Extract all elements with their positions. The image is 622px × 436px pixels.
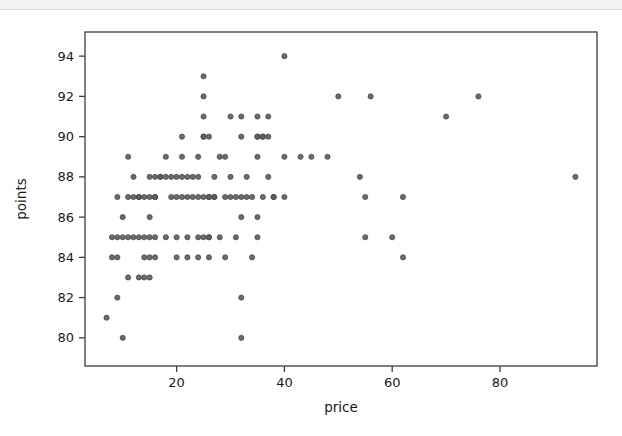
data-point [179, 194, 184, 199]
data-point [239, 215, 244, 220]
y-tick-label: 86 [57, 210, 74, 225]
data-point [228, 194, 233, 199]
data-point [201, 235, 206, 240]
data-point [174, 194, 179, 199]
data-point [239, 134, 244, 139]
data-point [115, 235, 120, 240]
data-point [223, 194, 228, 199]
data-point [357, 174, 362, 179]
data-point [147, 174, 152, 179]
y-tick-label: 90 [57, 129, 74, 144]
data-point [179, 134, 184, 139]
data-point [223, 154, 228, 159]
data-point [163, 174, 168, 179]
data-point [206, 194, 211, 199]
data-point [147, 235, 152, 240]
x-tick-label: 60 [384, 375, 401, 390]
data-point [206, 255, 211, 260]
data-point [126, 275, 131, 280]
data-point [120, 335, 125, 340]
data-point [244, 174, 249, 179]
data-point [255, 215, 260, 220]
data-point [196, 174, 201, 179]
data-point [126, 154, 131, 159]
data-point [336, 94, 341, 99]
data-point [196, 235, 201, 240]
y-tick-label: 80 [57, 330, 74, 345]
y-tick-label: 82 [57, 290, 74, 305]
data-point [201, 134, 206, 139]
data-point [206, 134, 211, 139]
data-point [325, 154, 330, 159]
data-point [163, 154, 168, 159]
data-point [223, 255, 228, 260]
data-point [120, 215, 125, 220]
data-point [185, 255, 190, 260]
data-point [266, 114, 271, 119]
data-points-group [104, 54, 578, 341]
data-point [120, 235, 125, 240]
x-tick-label: 20 [168, 375, 185, 390]
data-point [201, 194, 206, 199]
data-point [206, 235, 211, 240]
data-point [390, 235, 395, 240]
data-point [169, 174, 174, 179]
data-point [104, 315, 109, 320]
data-point [255, 235, 260, 240]
data-point [228, 114, 233, 119]
x-axis-title: price [324, 399, 358, 415]
data-point [152, 194, 157, 199]
data-point [109, 255, 114, 260]
plot-canvas: 808284868890929420406080pricepoints [0, 0, 622, 436]
y-axis-title: points [13, 178, 29, 219]
data-point [126, 235, 131, 240]
data-point [212, 194, 217, 199]
data-point [142, 255, 147, 260]
data-point [363, 194, 368, 199]
data-point [185, 194, 190, 199]
data-point [190, 174, 195, 179]
data-point [201, 74, 206, 79]
data-point [152, 255, 157, 260]
data-point [136, 235, 141, 240]
x-tick-label: 40 [276, 375, 293, 390]
data-point [196, 255, 201, 260]
y-tick-label: 92 [57, 89, 74, 104]
data-point [239, 335, 244, 340]
data-point [190, 194, 195, 199]
data-point [152, 174, 157, 179]
data-point [363, 235, 368, 240]
data-point [249, 255, 254, 260]
data-point [271, 194, 276, 199]
data-point [443, 114, 448, 119]
data-point [115, 194, 120, 199]
data-point [266, 134, 271, 139]
data-point [142, 235, 147, 240]
data-point [368, 94, 373, 99]
data-point [174, 235, 179, 240]
data-point [255, 134, 260, 139]
data-point [201, 114, 206, 119]
data-point [239, 295, 244, 300]
data-point [400, 194, 405, 199]
y-tick-label: 88 [57, 169, 74, 184]
data-point [147, 275, 152, 280]
data-point [152, 235, 157, 240]
data-point [309, 154, 314, 159]
data-point [239, 114, 244, 119]
data-point [142, 275, 147, 280]
data-point [196, 194, 201, 199]
data-point [115, 295, 120, 300]
data-point [136, 194, 141, 199]
y-tick-label: 94 [57, 49, 74, 64]
data-point [179, 154, 184, 159]
data-point [126, 194, 131, 199]
data-point [282, 54, 287, 59]
data-point [136, 275, 141, 280]
data-point [174, 174, 179, 179]
y-tick-label: 84 [57, 250, 74, 265]
data-point [282, 194, 287, 199]
data-point [147, 255, 152, 260]
data-point [179, 174, 184, 179]
scatter-plot-figure: 808284868890929420406080pricepoints [0, 0, 622, 436]
